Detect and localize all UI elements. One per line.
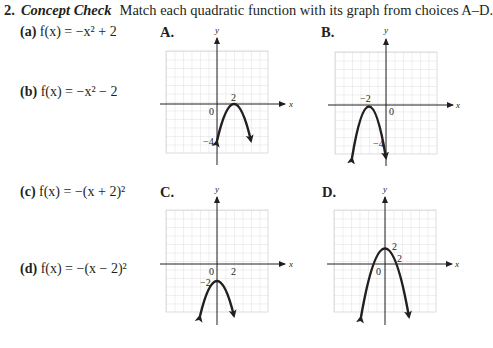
graph-c-x-axis-label: x [288, 259, 293, 269]
graph-a-tick: 2 [231, 92, 236, 103]
graph-a-x-axis-label: x [288, 99, 293, 109]
graph-d-tick: 2 [397, 253, 402, 264]
graph-b-tick: −4 [373, 138, 384, 149]
graph-d: x y 2 2 0 [327, 184, 459, 325]
graph-b-y-axis-label: y [383, 25, 388, 35]
graph-a-tick: 0 [209, 106, 214, 117]
graph-c-tick: 0 [209, 266, 214, 277]
graph-a-y-axis-label: y [214, 25, 219, 35]
graph-b-tick: 0 [389, 106, 394, 117]
graph-a: x y 2 0 −4 [160, 25, 293, 165]
graph-a-tick: −4 [203, 136, 214, 147]
graph-b-tick: −2 [360, 93, 371, 104]
graph-d-tick: 0 [376, 266, 381, 277]
graph-b-x-axis-label: x [455, 100, 460, 110]
graph-d-x-axis-label: x [454, 259, 459, 269]
graph-d-tick: 2 [392, 241, 397, 252]
graph-c-tick: 2 [231, 266, 236, 277]
graph-c: x y 0 2 −2 [160, 184, 293, 325]
graph-b: x y −2 0 −4 [328, 25, 460, 166]
graph-c-tick: −2 [200, 277, 211, 288]
graph-c-y-axis-label: y [214, 184, 219, 194]
graph-d-y-axis-label: y [382, 184, 387, 194]
